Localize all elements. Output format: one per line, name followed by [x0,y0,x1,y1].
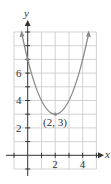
tick-label-x-4: 4 [80,158,86,170]
tick-label-y-4: 4 [16,94,22,106]
parabola-chart: y x 2 4 2 4 6 (2, 3) [0,0,111,184]
tick-label-y-6: 6 [16,67,22,79]
y-intercept-point [26,58,29,61]
vertex-label: (2, 3) [43,116,67,129]
y-axis-label: y [23,7,29,19]
y-axis-arrow-icon [25,20,31,26]
tick-label-y-2: 2 [16,122,22,134]
curve-arrow-right-icon [86,31,91,38]
tick-label-x-2: 2 [52,158,58,170]
x-axis-label: x [104,148,110,160]
curve-arrow-left-icon [20,31,25,38]
x-axis-arrow-icon [98,152,104,158]
